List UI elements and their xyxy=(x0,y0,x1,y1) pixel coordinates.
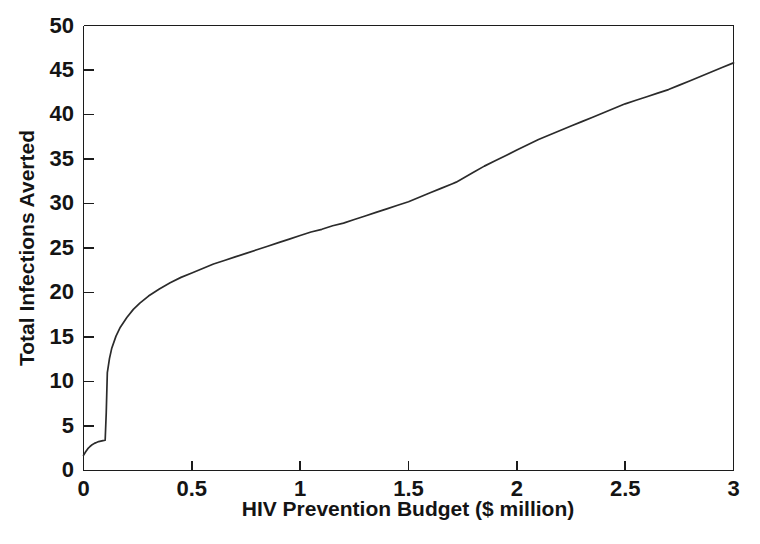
y-tick-label-10: 10 xyxy=(50,368,74,393)
y-tick-label-35: 35 xyxy=(50,146,74,171)
x-axis-ticks xyxy=(84,461,734,471)
y-tick-label-50: 50 xyxy=(50,13,74,38)
y-tick-label-15: 15 xyxy=(50,324,74,349)
line-chart: 50 45 40 35 30 25 20 15 10 5 0 0 0.5 1 1… xyxy=(0,0,760,544)
data-series-line xyxy=(84,63,734,455)
x-tick-label-0p5: 0.5 xyxy=(177,476,208,501)
x-tick-label-0: 0 xyxy=(77,476,89,501)
y-tick-label-30: 30 xyxy=(50,190,74,215)
y-tick-label-20: 20 xyxy=(50,279,74,304)
y-tick-label-0: 0 xyxy=(62,457,74,482)
plot-frame xyxy=(84,26,734,471)
y-axis-ticks xyxy=(84,26,94,471)
y-axis-title: Total Infections Averted xyxy=(15,130,38,366)
y-tick-label-5: 5 xyxy=(62,413,74,438)
chart-figure: 50 45 40 35 30 25 20 15 10 5 0 0 0.5 1 1… xyxy=(0,0,760,544)
y-tick-label-45: 45 xyxy=(50,57,74,82)
y-axis-tick-labels: 50 45 40 35 30 25 20 15 10 5 0 xyxy=(50,13,74,482)
y-tick-label-40: 40 xyxy=(50,101,74,126)
x-tick-label-2p5: 2.5 xyxy=(610,476,641,501)
x-axis-title: HIV Prevention Budget ($ million) xyxy=(242,497,575,520)
y-tick-label-25: 25 xyxy=(50,235,74,260)
axes-box xyxy=(84,26,734,471)
x-tick-label-3: 3 xyxy=(727,476,739,501)
